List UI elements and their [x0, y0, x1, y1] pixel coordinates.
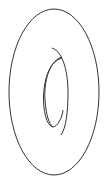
torus-diagram: [0, 0, 107, 186]
inner-hole-right-arc: [52, 48, 68, 135]
outer-ellipse: [9, 9, 99, 175]
inner-hole-left-arc: [43, 58, 63, 127]
inner-hole-left-arc-main: [45, 57, 62, 127]
